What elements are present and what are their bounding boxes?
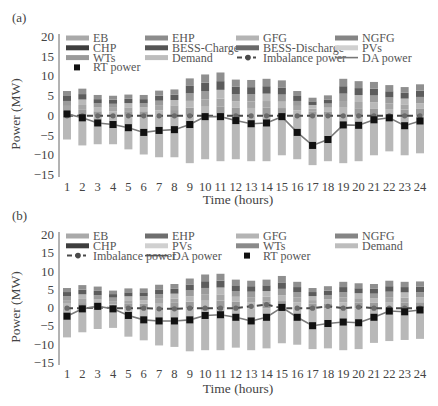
- legend-swatch: [236, 243, 259, 248]
- x-axis-label: Time (hours): [203, 381, 273, 396]
- bar-demand: [247, 308, 255, 350]
- bar-segment: [170, 105, 178, 110]
- bar-segment: [124, 99, 132, 103]
- legend-label: Demand: [172, 51, 213, 65]
- panel-a: (a)20151050−5−10−15Power (MW)12345678910…: [8, 10, 427, 207]
- rt-power-marker: [217, 311, 224, 318]
- bar-segment: [109, 104, 117, 108]
- y-tick-label: 15: [41, 245, 54, 260]
- bar-segment: [155, 91, 163, 96]
- rt-power-marker: [79, 305, 86, 312]
- imbalance-marker: [141, 306, 146, 311]
- bar-segment: [247, 94, 255, 101]
- rt-power-marker: [324, 136, 331, 143]
- y-tick-label: 10: [41, 68, 54, 83]
- bar-demand: [401, 116, 409, 155]
- bar-segment: [232, 297, 240, 302]
- bar-segment: [186, 290, 194, 296]
- imbalance-marker: [356, 304, 361, 309]
- imbalance-marker: [64, 306, 69, 311]
- bar-segment: [63, 106, 71, 110]
- bar-segment: [309, 98, 317, 102]
- legend-swatch: [66, 234, 89, 239]
- x-tick-label: 11: [214, 367, 226, 381]
- da-power-line: [67, 114, 420, 146]
- legend-swatch: [66, 243, 89, 248]
- legend: EBEHPGFGNGFGCHPPVsWTsDemandImbalance pow…: [66, 229, 403, 263]
- bar-segment: [201, 83, 209, 91]
- legend: EBEHPGFGNGFGCHPBESS-ChargeBESS-Discharge…: [66, 31, 412, 74]
- bar-segment: [170, 100, 178, 105]
- figure: (a)20151050−5−10−15Power (MW)12345678910…: [0, 0, 438, 406]
- bar-segment: [94, 295, 102, 299]
- bar-segment: [186, 296, 194, 301]
- imbalance-marker: [249, 304, 254, 309]
- x-tick-label: 15: [276, 180, 289, 194]
- x-tick-label: 15: [276, 367, 289, 381]
- x-tick-label: 22: [383, 367, 396, 381]
- bar-segment: [370, 294, 378, 299]
- rt-power-marker: [94, 119, 101, 126]
- rt-power-marker: [156, 317, 163, 324]
- bar-segment: [201, 274, 209, 281]
- bar-demand: [324, 308, 332, 348]
- bar-segment: [401, 298, 409, 303]
- bar-segment: [370, 298, 378, 302]
- bar-segment: [385, 91, 393, 97]
- bar-segment: [170, 289, 178, 294]
- y-axis-label: Power (MW): [8, 78, 23, 150]
- y-tick-label: 0: [48, 108, 55, 123]
- y-tick-label: 10: [41, 264, 54, 279]
- bar-segment: [355, 283, 363, 288]
- x-tick-label: 9: [187, 367, 193, 381]
- bar-segment: [216, 90, 224, 99]
- rt-power-marker: [94, 303, 101, 310]
- rt-power-marker: [417, 117, 424, 124]
- rt-power-marker: [171, 317, 178, 324]
- bar-segment: [416, 84, 424, 90]
- x-tick-label: 1: [64, 180, 70, 194]
- bar-segment: [385, 297, 393, 302]
- y-tick-label: −5: [40, 128, 54, 143]
- legend-marker: [75, 253, 81, 259]
- legend-item: DA power: [335, 51, 412, 65]
- x-tick-label: 14: [260, 367, 273, 381]
- x-tick-label: 9: [187, 180, 193, 194]
- x-tick-label: 5: [125, 367, 131, 381]
- bar-segment: [324, 99, 332, 103]
- da-power-line: [67, 306, 420, 325]
- bar-demand: [124, 116, 132, 150]
- bar-segment: [155, 285, 163, 290]
- bar-segment: [186, 78, 194, 85]
- bar-segment: [201, 295, 209, 301]
- rt-power-marker: [324, 320, 331, 327]
- bar-segment: [109, 96, 117, 100]
- x-tick-label: 20: [352, 180, 365, 194]
- bar-segment: [170, 294, 178, 299]
- bar-segment: [416, 297, 424, 302]
- rt-power-marker: [248, 317, 255, 324]
- bar-segment: [216, 274, 224, 281]
- x-tick-label: 18: [322, 180, 335, 194]
- rt-power-marker: [64, 313, 71, 320]
- bar-segment: [324, 299, 332, 303]
- bar-segment: [309, 300, 317, 304]
- legend-swatch: [145, 36, 168, 41]
- x-tick-label: 8: [171, 367, 177, 381]
- bar-segment: [355, 88, 363, 95]
- x-tick-label: 17: [306, 367, 319, 381]
- bar-segment: [293, 292, 301, 297]
- x-tick-label: 2: [79, 367, 85, 381]
- imbalance-marker: [172, 113, 177, 118]
- legend-label: RT power: [93, 60, 140, 74]
- bar-demand: [94, 308, 102, 329]
- y-tick-label: 0: [48, 300, 55, 315]
- bar-segment: [78, 105, 86, 110]
- bar-segment: [339, 101, 347, 108]
- bar-stack: [324, 95, 332, 161]
- legend-item: Imbalance power: [237, 51, 346, 65]
- bar-segment: [155, 96, 163, 101]
- bar-segment: [63, 101, 71, 106]
- legend-swatch: [335, 45, 358, 50]
- bar-segment: [63, 300, 71, 304]
